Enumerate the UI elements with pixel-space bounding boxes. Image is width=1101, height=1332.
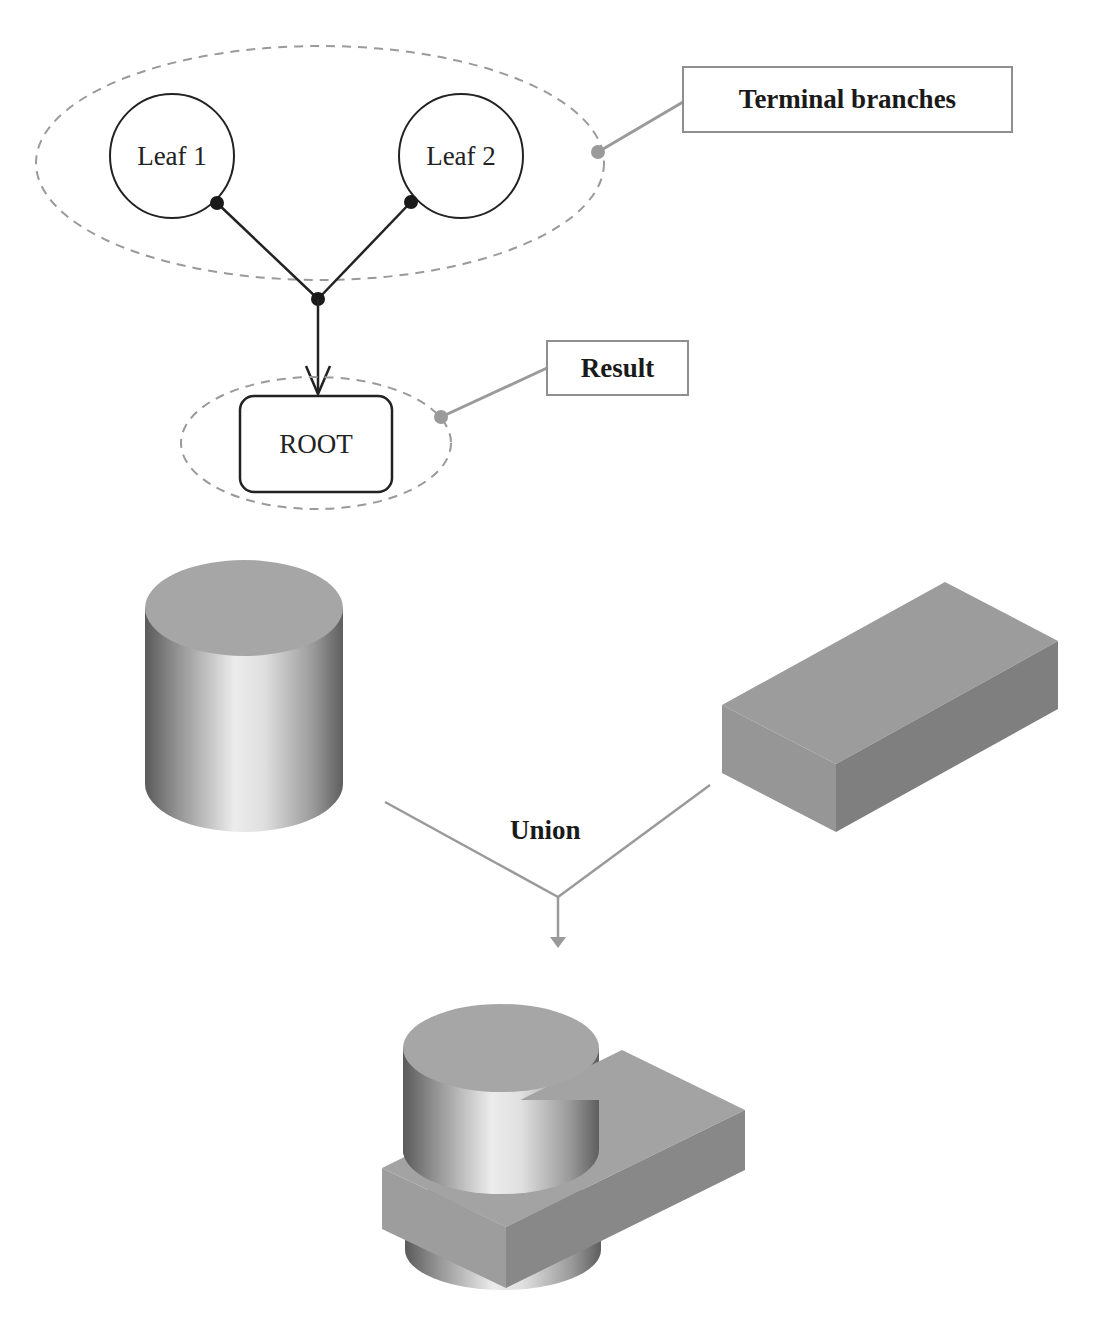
terminal-callout-line <box>598 102 683 152</box>
result-callout: Result <box>546 340 689 396</box>
result-text: Result <box>581 353 655 384</box>
edge-leaf2-junction <box>318 202 411 299</box>
terminal-callout-dot <box>591 145 605 159</box>
arrow-to-root <box>306 299 330 394</box>
terminal-branches-text: Terminal branches <box>739 84 956 115</box>
terminal-branches-callout: Terminal branches <box>682 66 1013 133</box>
result-callout-line <box>441 368 547 417</box>
leaf2-port-dot <box>404 195 418 209</box>
leaf1-port-dot <box>210 196 224 210</box>
box-solid[interactable] <box>722 582 1058 832</box>
leaf1-label: Leaf 1 <box>110 136 234 176</box>
union-connector <box>385 785 710 948</box>
edge-leaf1-junction <box>217 203 318 299</box>
result-callout-dot <box>434 410 448 424</box>
cylinder-solid[interactable] <box>145 560 343 832</box>
leaf2-label: Leaf 2 <box>399 136 523 176</box>
root-label: ROOT <box>240 424 392 464</box>
union-label: Union <box>510 815 581 846</box>
union-result-solid[interactable] <box>382 1004 745 1290</box>
terminal-branches-group <box>36 46 683 306</box>
diagram-canvas <box>0 0 1101 1332</box>
union-arrowhead <box>550 937 566 948</box>
